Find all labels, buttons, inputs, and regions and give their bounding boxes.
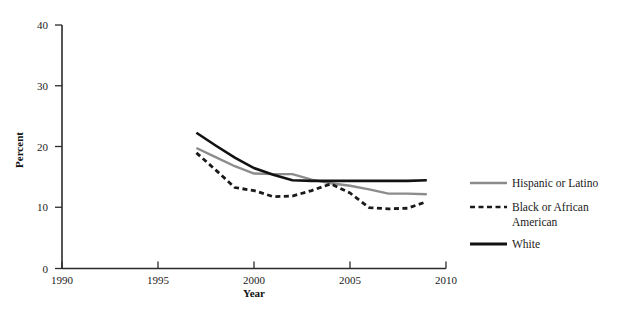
y-tick-label-40: 40 xyxy=(37,19,49,31)
y-tick-label-10: 10 xyxy=(37,201,49,213)
legend-label-black-or-african-american: Black or African xyxy=(512,201,589,213)
series-line-white xyxy=(196,133,426,181)
y-tick-label-0: 0 xyxy=(43,263,49,275)
x-tick-label-2010: 2010 xyxy=(435,274,458,286)
legend-label-white: White xyxy=(512,238,540,250)
x-axis-ticks xyxy=(62,262,446,269)
y-tick-label-20: 20 xyxy=(37,141,49,153)
y-axis-title: Percent xyxy=(13,132,25,168)
x-tick-label-2000: 2000 xyxy=(243,274,266,286)
y-tick-label-30: 30 xyxy=(37,80,49,92)
x-tick-label-2005: 2005 xyxy=(339,274,362,286)
series-group xyxy=(196,133,426,209)
legend-label-hispanic-or-latino: Hispanic or Latino xyxy=(512,177,598,190)
line-chart-canvas: 40 30 20 10 0 1990 1995 2000 2005 2010 Y… xyxy=(0,0,627,319)
legend-label-black-or-african-american-line2: American xyxy=(512,216,558,228)
y-axis-ticks xyxy=(55,25,62,269)
x-tick-label-1995: 1995 xyxy=(147,274,170,286)
x-axis-title: Year xyxy=(243,287,265,299)
chart-legend: Hispanic or Latino Black or African Amer… xyxy=(470,177,598,250)
chart-figure: 40 30 20 10 0 1990 1995 2000 2005 2010 Y… xyxy=(0,0,627,319)
x-tick-label-1990: 1990 xyxy=(51,274,74,286)
